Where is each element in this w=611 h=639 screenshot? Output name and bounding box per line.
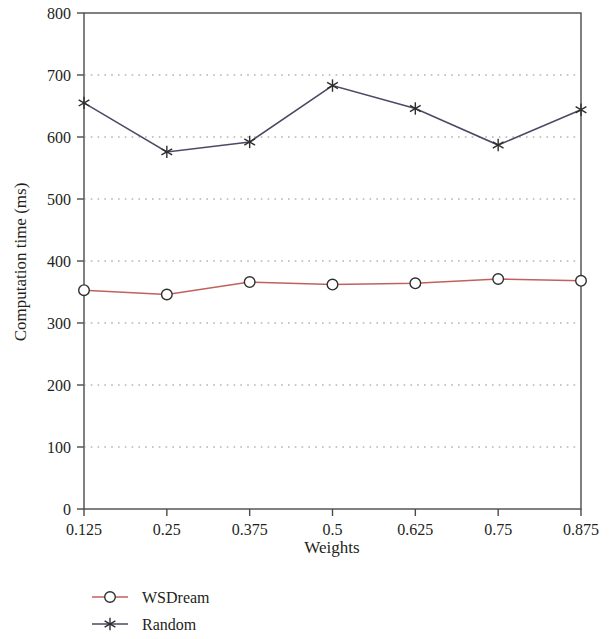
series-line	[84, 86, 581, 152]
x-tick-label: 0.625	[397, 521, 433, 538]
x-tick-label: 0.5	[323, 521, 343, 538]
gridlines	[84, 75, 581, 447]
y-axis-ticks	[77, 13, 84, 509]
x-tick-label: 0.875	[563, 521, 599, 538]
legend-item-random[interactable]: Random	[92, 616, 197, 633]
data-point-marker-circle	[327, 279, 338, 290]
data-point-marker-circle	[493, 274, 504, 285]
data-point-marker-circle	[576, 276, 587, 287]
data-point-marker-asterisk	[410, 102, 421, 114]
data-point-marker-asterisk	[327, 79, 338, 91]
y-tick-label: 500	[47, 191, 71, 208]
data-point-marker-circle	[244, 277, 255, 288]
data-point-marker-asterisk	[576, 104, 587, 116]
data-point-marker-asterisk	[79, 97, 90, 109]
y-tick-label: 0	[63, 501, 71, 518]
plot-area: 0100200300400500600700800 0.1250.250.375…	[47, 5, 599, 538]
y-tick-label: 800	[47, 5, 71, 22]
series-wsdream	[79, 274, 587, 300]
data-point-marker-circle	[410, 278, 421, 289]
y-tick-label: 600	[47, 129, 71, 146]
y-tick-label: 200	[47, 377, 71, 394]
data-point-marker-circle	[162, 289, 173, 300]
y-tick-label: 300	[47, 315, 71, 332]
y-axis-tick-labels: 0100200300400500600700800	[47, 5, 71, 518]
legend-label: WSDream	[142, 589, 210, 606]
x-tick-label: 0.125	[66, 521, 102, 538]
data-point-marker-circle	[79, 285, 90, 296]
x-tick-label: 0.375	[232, 521, 268, 538]
x-axis-title: Weights	[304, 538, 359, 557]
x-axis-ticks	[84, 509, 581, 516]
computation-time-line-chart: 0100200300400500600700800 0.1250.250.375…	[0, 0, 611, 639]
data-point-marker-circle	[105, 592, 116, 603]
y-axis-title: Computation time (ms)	[11, 183, 30, 342]
x-tick-label: 0.25	[153, 521, 181, 538]
data-point-marker-asterisk	[493, 139, 504, 151]
legend-item-wsdream[interactable]: WSDream	[92, 589, 210, 606]
series-random	[79, 79, 587, 158]
y-tick-label: 700	[47, 67, 71, 84]
data-series-layer	[79, 79, 587, 299]
legend-label: Random	[142, 616, 197, 633]
x-axis-tick-labels: 0.1250.250.3750.50.6250.750.875	[66, 521, 599, 538]
y-tick-label: 400	[47, 253, 71, 270]
chart-legend: WSDreamRandom	[92, 589, 210, 633]
y-tick-label: 100	[47, 439, 71, 456]
x-tick-label: 0.75	[484, 521, 512, 538]
